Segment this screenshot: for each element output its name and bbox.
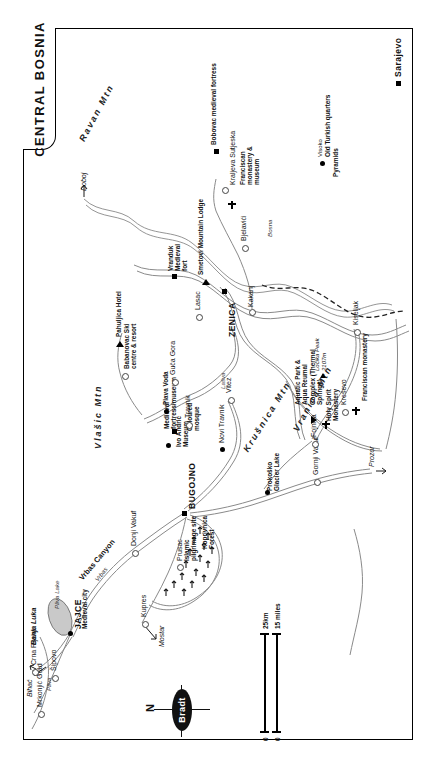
label-river-lasva: Lašva	[220, 372, 227, 389]
town-symbol-donji-vakuf	[132, 550, 139, 557]
label-kiseljak: Kiseljak	[352, 301, 360, 325]
label-babanovac-ski-resort: Babanovac Ski centre & resort	[124, 323, 138, 369]
town-symbol-novi-travnik	[220, 447, 225, 452]
spring-symbol-plava-voda	[164, 409, 169, 414]
label-kakanj: Kakanj	[247, 286, 255, 307]
label-banja-luka-direction: Banja Luka	[30, 608, 38, 645]
town-symbol-kakanj	[249, 309, 256, 316]
spa-icon-aqua-reumal	[311, 416, 317, 424]
label-river-bosna: Bosna	[267, 219, 274, 237]
label-sarajevo: Sarajevo	[394, 38, 403, 77]
label-smetovi-mountain-lodge: Smetovi Mountain Lodge	[198, 199, 205, 275]
label-pyramids: Pyramids	[333, 148, 340, 177]
label-pahuljica-hotel: Pahuljica Hotel	[116, 291, 123, 337]
label-kraljeva-sutjeska: Kraljeva Sutjeska	[229, 131, 237, 185]
label-franciscan-monastery-museum: Franciscan monastery & museum	[240, 133, 261, 185]
label-lasac: Lasac	[194, 291, 202, 310]
scale-bar-km-line	[264, 633, 266, 733]
scale-bar: 25km 15 miles 0 0	[256, 629, 296, 737]
label-locika-peak: Ločika Peak	[314, 338, 320, 371]
village-symbol-kraljeva-sutjeska	[222, 187, 229, 194]
village-symbol-bjelavici	[242, 245, 249, 252]
lodge-icon-smetovi	[202, 279, 210, 285]
peak-symbol-locika	[320, 373, 326, 378]
site-symbol-bobovac	[214, 149, 219, 154]
village-symbol-crna-rijeka	[32, 669, 39, 676]
scale-bar-km-tick-bottom	[260, 731, 269, 733]
town-symbol-kiseljak	[354, 329, 361, 336]
scale-bar-miles-tick-top	[272, 633, 281, 635]
fort-symbol-vranduk	[172, 274, 177, 279]
label-visoko: Visoko	[317, 139, 323, 157]
scale-label-zero-miles: 0	[274, 737, 281, 741]
town-symbol-kupres	[142, 621, 149, 628]
map-title-tab: CENTRAL BOSNIA	[23, 28, 56, 150]
label-pliva-lake: Pliva Lake	[54, 580, 61, 609]
resort-symbol-babanovac	[122, 373, 129, 380]
city-symbol-zenica	[222, 289, 227, 294]
label-vlasic-mtn: Vlašic Mtn	[94, 384, 104, 449]
label-islamic-pilgrimage-site: Islamic pilgrimage site	[184, 511, 198, 561]
lake-symbol-prokosko	[265, 490, 270, 495]
monastery-icon-kraljeva-sutjeska	[228, 201, 236, 209]
label-zenica: ZENICA	[228, 302, 237, 337]
town-symbol-fojnica	[312, 441, 319, 448]
label-bugojno: BUGOJNO	[188, 463, 197, 509]
town-symbol-gornji-vakuf	[314, 479, 321, 486]
label-mostar-direction: Mostar	[158, 626, 166, 647]
label-kresevo: Kreševo	[340, 379, 348, 405]
label-koprivnica-forest: Koprivnica Forest	[202, 513, 216, 549]
label-old-turkish-quarters: Old Turkish quarters	[325, 95, 332, 157]
label-vranduk-medieval-fort: Vranduk Medieval fort	[168, 235, 189, 271]
map-canvas: Sarajevo ZENICA BUGOJNO JAJCE Medieval c…	[23, 28, 413, 740]
label-franciscan-monastery: Franciscan monastery	[362, 333, 369, 401]
town-symbol-travnik	[186, 422, 193, 429]
label-novi-travnik: Novi Travnik	[218, 404, 226, 443]
scale-bar-km-tick-top	[260, 633, 269, 635]
label-prokosko-glacier-lake: Prokoško Glacier Lake	[267, 449, 281, 491]
publisher-logo: Bradt	[177, 697, 187, 723]
village-symbol-lasac	[196, 314, 203, 321]
town-symbol-kresevo	[342, 409, 349, 416]
label-sipovo: Šipovo	[50, 650, 58, 671]
label-prozor: Prozor	[368, 446, 376, 467]
hotel-icon-pahuljica	[116, 341, 124, 347]
compass-north-label: N	[144, 704, 156, 712]
village-symbol-prusac	[177, 564, 184, 571]
label-doboj-direction: Doboj	[80, 173, 88, 191]
fortress-symbol-travnik	[172, 429, 177, 434]
scale-label-zero-km: 0	[262, 737, 269, 741]
label-kupres: Kupres	[140, 595, 148, 617]
page-title: CENTRAL BOSNIA	[32, 21, 47, 157]
label-locika-peak-elevation: 2107m	[321, 353, 327, 371]
label-bjelavici: Bjelavići	[240, 215, 248, 241]
city-symbol-sarajevo	[396, 81, 401, 86]
city-symbol-bugojno	[182, 511, 187, 516]
scale-label-miles: 15 miles	[274, 603, 281, 629]
town-symbol-visoko	[320, 161, 325, 166]
label-holy-spirit-monastery: Holy Spirit Monastery	[326, 379, 340, 421]
scale-bar-miles-line	[276, 633, 278, 733]
monastery-icon-franciscan-kresevo	[352, 407, 360, 415]
town-symbol-sipovo	[52, 675, 59, 682]
label-bihac-direction: Bihać	[26, 679, 34, 697]
village-symbol-guca-gora	[172, 379, 179, 386]
monastery-icon-holy-spirit	[322, 421, 330, 429]
compass-rose: N Bradt	[146, 687, 216, 735]
label-guca-gora: Guča Gora	[169, 341, 177, 375]
label-bobovac-fortress: Bobovac medieval fortress	[211, 63, 218, 145]
town-symbol-mrkonjic-grad	[38, 711, 45, 718]
town-symbol-vitez	[228, 397, 235, 404]
city-symbol-jajce	[68, 631, 73, 636]
label-jajce-medieval-city: Medieval city	[82, 589, 89, 629]
scale-bar-miles-tick-bottom	[272, 731, 281, 733]
museum-symbol-ivo-andric	[166, 443, 171, 448]
label-donji-vakuf: Donji Vakuf	[130, 511, 138, 546]
scale-label-km: 25km	[262, 612, 269, 629]
